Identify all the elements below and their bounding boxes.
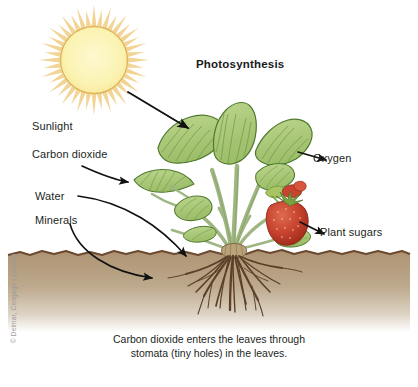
strawberry-fruit xyxy=(266,191,308,245)
leaf-small-left xyxy=(134,169,194,199)
label-carbon-dioxide: Carbon dioxide xyxy=(32,148,107,160)
label-sunlight: Sunlight xyxy=(32,120,73,132)
caption-line-2: stomata (tiny holes) in the leaves. xyxy=(0,347,418,361)
label-plant-sugars: Plant sugars xyxy=(320,226,382,238)
label-oxygen: Oxygen xyxy=(313,152,352,164)
figure-caption: Carbon dioxide enters the leaves through… xyxy=(0,333,418,360)
leaf-center xyxy=(214,103,257,165)
leaf-upper-right xyxy=(255,119,312,165)
label-water: Water xyxy=(35,190,64,202)
sun-disc xyxy=(61,27,128,94)
arrow-sunlight xyxy=(128,92,188,128)
soil-body xyxy=(8,250,410,332)
photosynthesis-diagram: Photosynthesis Sunlight Carbon dioxide W… xyxy=(0,0,418,387)
leaf-mid-left xyxy=(175,196,212,221)
caption-line-1: Carbon dioxide enters the leaves through xyxy=(0,333,418,347)
soil-layer xyxy=(8,250,410,332)
arrow-water xyxy=(78,196,186,256)
sun xyxy=(39,5,149,115)
page-title: Photosynthesis xyxy=(196,58,284,70)
leaf-lower-left xyxy=(183,226,216,242)
copyright-credit: © Delmar, Cengage Learning xyxy=(10,244,17,354)
arrow-carbon-dioxide xyxy=(82,166,128,182)
label-minerals: Minerals xyxy=(35,214,77,226)
